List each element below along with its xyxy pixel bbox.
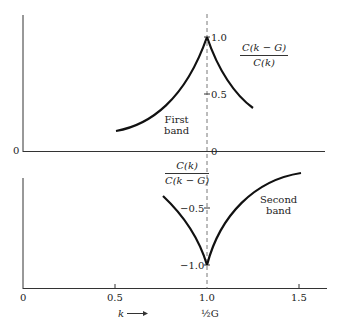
tick-label-0.5: 0.5 bbox=[211, 89, 227, 100]
first-band-label-line1: First bbox=[165, 114, 189, 125]
half-g-label: ½G bbox=[201, 308, 219, 319]
x-tick-label-1: 1.0 bbox=[199, 292, 215, 303]
second-band-curve bbox=[207, 173, 301, 265]
top-ratio-label: C(k − G) C(k) bbox=[240, 42, 288, 69]
top-zero-label: 0 bbox=[13, 145, 19, 156]
bottom-ratio-denominator: C(k − G) bbox=[165, 174, 209, 187]
tick-label-1: 1.0 bbox=[211, 32, 227, 43]
second-band-label: Second band bbox=[260, 194, 297, 216]
k-axis-label: k bbox=[118, 308, 124, 319]
first-band-label-line2: band bbox=[164, 125, 189, 136]
x-tick-label-0.5: 0.5 bbox=[107, 292, 123, 303]
tick-label-neg1: −1.0 bbox=[180, 260, 204, 271]
tick-label-neg0.5: −0.5 bbox=[180, 203, 204, 214]
top-zero-label-right: 0 bbox=[211, 146, 217, 157]
first-band-label: First band bbox=[164, 114, 189, 136]
first-band-curve bbox=[116, 37, 207, 131]
second-band-label-line1: Second bbox=[260, 194, 297, 205]
x-tick-label-0: 0 bbox=[20, 292, 26, 303]
bottom-ratio-label: C(k) C(k − G) bbox=[165, 160, 209, 187]
bottom-ratio-numerator: C(k) bbox=[165, 160, 209, 174]
top-ratio-denominator: C(k) bbox=[240, 56, 288, 69]
top-ratio-numerator: C(k − G) bbox=[240, 42, 288, 56]
second-band-label-line2: band bbox=[266, 205, 291, 216]
x-tick-label-1.5: 1.5 bbox=[291, 292, 307, 303]
